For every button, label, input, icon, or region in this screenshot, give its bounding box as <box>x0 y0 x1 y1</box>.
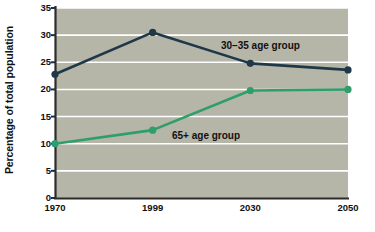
series-annotation-green: 65+ age group <box>172 131 240 141</box>
data-point <box>149 127 156 134</box>
data-point <box>51 71 58 78</box>
data-point <box>149 29 156 36</box>
data-point <box>51 140 58 147</box>
data-point <box>247 87 254 94</box>
data-point <box>344 86 351 93</box>
line-chart-figure: Percentage of total population 051015202… <box>0 0 375 232</box>
plot-area <box>0 0 375 232</box>
plot-background <box>55 8 348 198</box>
data-point <box>344 66 351 73</box>
series-annotation-navy: 30–35 age group <box>221 41 300 51</box>
data-point <box>247 60 254 67</box>
